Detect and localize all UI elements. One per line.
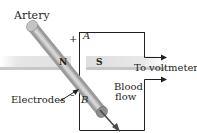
electrodes-label: Electrodes xyxy=(11,95,65,105)
flowmeter-diagram: Artery + A N S To voltmeter Blood flow E… xyxy=(0,0,197,133)
blood-flow-arrow xyxy=(100,110,120,132)
electrode-b-label: B xyxy=(81,95,88,105)
artery-label: Artery xyxy=(14,10,50,21)
electrode-a-label: A xyxy=(83,31,90,41)
to-voltmeter-label: To voltmeter xyxy=(134,63,197,73)
plus-sign: + xyxy=(69,34,77,44)
north-pole-label: N xyxy=(59,58,67,67)
minus-sign: – xyxy=(70,91,75,100)
south-pole-label: S xyxy=(96,58,103,67)
blood-flow-label-line2: flow xyxy=(115,92,136,102)
arrow-right-icon xyxy=(161,77,167,83)
